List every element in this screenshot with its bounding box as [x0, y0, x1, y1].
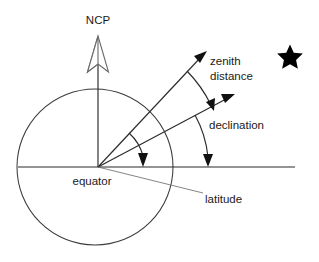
- latitude-label: latitude: [205, 193, 242, 205]
- declination-arc-arrowhead-icon: [203, 154, 213, 167]
- zenith-ray-arrowhead-icon: [194, 51, 207, 63]
- astronomy-diagram: NCP zenith distance declination equator …: [0, 0, 319, 262]
- ncp-label: NCP: [86, 14, 111, 26]
- zenith-distance-label-line2: distance: [210, 70, 253, 82]
- declination-label: declination: [209, 119, 264, 131]
- latitude-arc-arrowhead-icon: [138, 153, 148, 167]
- latitude-leader-line: [98, 167, 203, 193]
- zenith-ray-line: [98, 57, 201, 167]
- declination-arc: [195, 115, 208, 157]
- diagram-canvas: NCP zenith distance declination equator …: [0, 0, 319, 262]
- declination-ray-arrowhead-icon: [221, 94, 235, 103]
- zenith-distance-arc: [187, 71, 211, 105]
- zenith-distance-label-line1: zenith: [210, 55, 241, 67]
- star-icon: [277, 44, 303, 68]
- equator-label: equator: [72, 175, 111, 187]
